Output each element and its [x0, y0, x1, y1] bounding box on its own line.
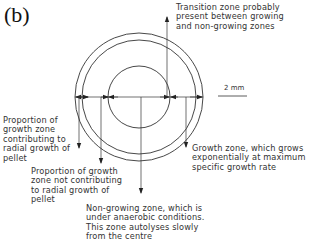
annotation-growth-zone: Growth zone, which grows exponentially a… — [192, 144, 306, 172]
annotation-non-growing-zone: Non-growing zone, which is under anaerob… — [86, 204, 204, 240]
annotation-transition-zone: Transition zone probably present between… — [176, 3, 284, 31]
annotation-growth-contributing: Proportion of growth zone contributing t… — [3, 116, 70, 163]
annotation-growth-not-contributing: Proportion of growth zone not contributi… — [31, 167, 122, 205]
scale-bar-label: 2 mm — [224, 84, 244, 92]
